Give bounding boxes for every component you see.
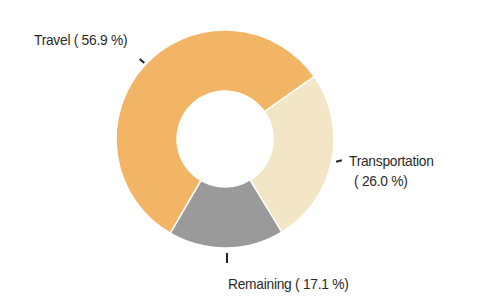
donut-slices: [116, 30, 334, 248]
remaining-leader-line: [226, 253, 228, 263]
label-remaining: Remaining ( 17.1 %): [228, 275, 349, 293]
label-travel: Travel ( 56.9 %): [34, 31, 127, 49]
label-transportation: Transportation: [349, 152, 434, 170]
label-transportation-percent: ( 26.0 %): [354, 172, 408, 190]
